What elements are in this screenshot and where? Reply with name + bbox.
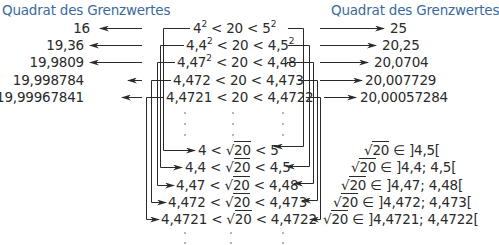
ellipsis-dots <box>184 112 284 244</box>
